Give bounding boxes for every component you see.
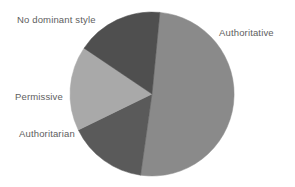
pie-slice-group bbox=[70, 12, 234, 176]
pie-label-no-dominant-style: No dominant style bbox=[17, 14, 96, 25]
pie-label-authoritative: Authoritative bbox=[219, 27, 274, 38]
pie-label-authoritarian: Authoritarian bbox=[19, 128, 75, 139]
pie-chart-figure: No dominant style Authoritative Permissi… bbox=[0, 0, 295, 187]
pie-label-permissive: Permissive bbox=[15, 91, 63, 102]
